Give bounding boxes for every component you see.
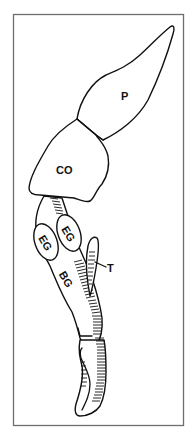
label-p: P — [121, 90, 128, 102]
part-t — [87, 237, 99, 296]
part-p — [77, 26, 174, 140]
label-t: T — [107, 262, 114, 274]
anatomical-diagram: P CO — [0, 0, 193, 438]
label-co: CO — [56, 164, 73, 176]
